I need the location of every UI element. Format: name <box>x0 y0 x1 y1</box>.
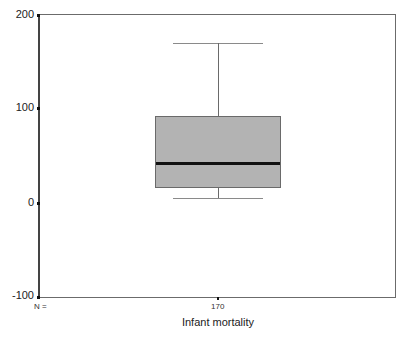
x-tick <box>217 297 219 300</box>
y-label-200: 200 <box>4 8 34 20</box>
n-value: 170 <box>211 302 224 311</box>
y-label-100: 100 <box>4 101 34 113</box>
n-label: N = <box>34 302 47 311</box>
y-tick-100 <box>37 107 40 110</box>
y-label-minus-100: -100 <box>4 289 34 301</box>
y-tick-minus-100 <box>37 296 40 299</box>
lower-whisker-cap <box>173 198 263 199</box>
y-tick-200 <box>37 14 40 17</box>
y-axis-line <box>38 14 40 298</box>
upper-whisker-line <box>218 43 219 116</box>
iqr-box <box>155 116 281 188</box>
y-tick-0 <box>37 202 40 205</box>
x-axis-title: Infant mortality <box>168 316 268 328</box>
lower-whisker-line <box>218 188 219 198</box>
y-label-0: 0 <box>4 196 34 208</box>
median-line <box>156 162 280 165</box>
